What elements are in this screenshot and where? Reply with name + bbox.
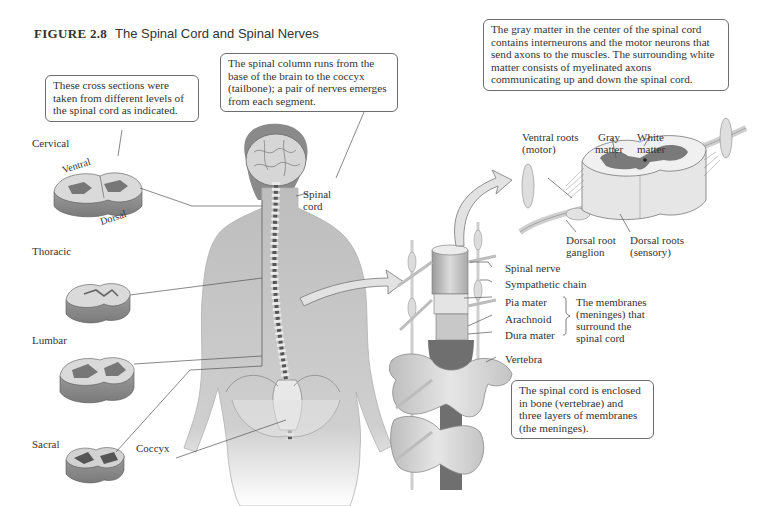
label-meninges-line1: The membranes: [576, 296, 647, 309]
label-ventral-roots-line1: Ventral roots: [522, 131, 579, 144]
cross-section-lumbar: [60, 358, 134, 403]
callout-cross-sections: These cross sections were taken from dif…: [45, 75, 199, 122]
label-spinal-cord-line2: cord: [303, 200, 323, 213]
label-thoracic: Thoracic: [32, 245, 71, 258]
label-dorsal-roots-line2: (sensory): [630, 246, 671, 259]
label-dorsal-roots-line1: Dorsal roots: [630, 234, 684, 247]
label-gray-matter-line2: matter: [595, 143, 623, 156]
figure-title: FIGURE 2.8The Spinal Cord and Spinal Ner…: [34, 26, 319, 42]
callout-enclosure: The spinal cord is enclosed in bone (ver…: [511, 380, 654, 439]
cross-section-thoracic: [66, 284, 130, 323]
label-ventral-roots-line2: (motor): [522, 143, 556, 156]
label-meninges-line2: (meninges) that: [576, 308, 645, 321]
label-drg-line2: ganglion: [566, 246, 605, 259]
label-arachnoid: Arachnoid: [505, 313, 551, 326]
label-spinal-cord-line1: Spinal: [303, 188, 331, 201]
label-sacral: Sacral: [32, 438, 59, 451]
label-spinal-nerve: Spinal nerve: [505, 262, 560, 275]
vertebral-column-closeup: [389, 222, 512, 490]
label-vertebra: Vertebra: [505, 353, 542, 366]
label-gray-matter-line1: Gray: [598, 131, 620, 144]
label-drg-line1: Dorsal root: [566, 234, 616, 247]
cross-section-cervical: [54, 173, 142, 217]
figure-name: The Spinal Cord and Spinal Nerves: [115, 26, 319, 41]
cross-section-sacral: [66, 448, 124, 483]
label-meninges-line4: spinal cord: [576, 332, 625, 345]
callout-gray-white-matter: The gray matter in the center of the spi…: [483, 19, 729, 91]
label-cervical: Cervical: [32, 137, 69, 150]
label-dura-mater: Dura mater: [505, 329, 555, 342]
label-pia-mater: Pia mater: [505, 296, 547, 309]
label-white-matter-line1: White: [637, 131, 664, 144]
label-white-matter-line2: matter: [637, 143, 665, 156]
callout-spinal-column: The spinal column runs from the base of …: [220, 53, 398, 112]
label-meninges-line3: surround the: [576, 320, 631, 333]
label-lumbar: Lumbar: [32, 334, 67, 347]
human-figure: [184, 124, 392, 506]
figure-number: FIGURE 2.8: [34, 26, 107, 41]
label-coccyx: Coccyx: [136, 442, 170, 455]
label-sympathetic-chain: Sympathetic chain: [505, 278, 587, 291]
zoom-arrow-section: [455, 170, 512, 246]
